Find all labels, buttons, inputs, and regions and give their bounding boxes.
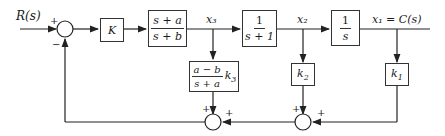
main-sum-minus-sign: −	[52, 40, 60, 50]
plant-block: 1 s + 1	[242, 10, 277, 47]
feedback-k1-block: k1	[385, 63, 409, 86]
left-inner-sum-plus-top: +	[202, 104, 210, 114]
k1-gain: k	[391, 67, 398, 80]
right-inner-sum-plus-right: +	[317, 108, 325, 118]
feedback-k3-block: a − b s + a k3	[189, 61, 239, 92]
left-inner-sum-plus-right: +	[225, 108, 233, 118]
signal-x2-label: x₂	[297, 14, 308, 25]
main-sum-plus-sign: +	[50, 16, 58, 26]
k2-gain: k	[297, 67, 304, 80]
lead-numerator: s + a	[151, 14, 183, 29]
k3-numerator: a − b	[192, 64, 223, 77]
input-label: R(s)	[16, 10, 41, 22]
k1-subscript: 1	[398, 73, 403, 82]
k2-subscript: 2	[304, 73, 309, 82]
k3-denominator: s + a	[192, 77, 222, 89]
lead-compensator-block: s + a s + b	[148, 10, 187, 47]
gain-k-label: K	[108, 24, 116, 37]
right-inner-sum-plus-top: +	[292, 104, 300, 114]
k3-subscript: 3	[231, 75, 236, 84]
signal-x3-label: x₃	[206, 14, 217, 25]
integrator-numerator: 1	[340, 14, 351, 29]
output-label: x₁ = C(s)	[372, 14, 421, 25]
plant-numerator: 1	[254, 14, 265, 29]
plant-denominator: s + 1	[243, 29, 276, 43]
lead-denominator: s + b	[151, 29, 184, 43]
integrator-block: 1 s	[331, 10, 360, 46]
feedback-k2-block: k2	[291, 63, 315, 86]
integrator-denominator: s	[341, 29, 351, 43]
gain-k-block: K	[100, 18, 124, 42]
